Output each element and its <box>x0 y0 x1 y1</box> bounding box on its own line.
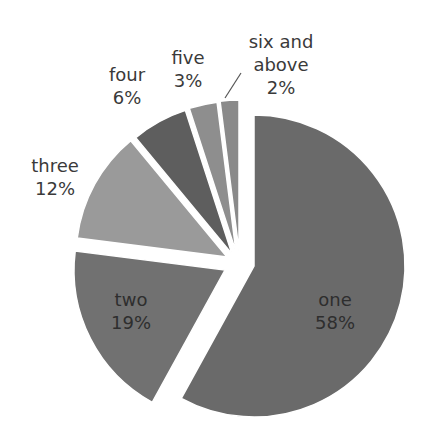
label-three-pct: 12% <box>31 177 79 200</box>
label-six-line1: six and <box>249 30 314 53</box>
leader-line-six-and-above <box>225 73 241 98</box>
label-three: three 12% <box>31 154 79 200</box>
label-six-line2: above <box>249 53 314 76</box>
label-four-pct: 6% <box>109 86 145 109</box>
label-six-and-above: six and above 2% <box>249 30 314 99</box>
label-two: two 19% <box>111 288 151 334</box>
label-one: one 58% <box>315 288 355 334</box>
label-one-pct: 58% <box>315 311 355 334</box>
label-four: four 6% <box>109 63 145 109</box>
label-four-name: four <box>109 63 145 86</box>
label-three-name: three <box>31 154 79 177</box>
label-five: five 3% <box>171 46 204 92</box>
pie-chart <box>0 0 428 445</box>
label-one-name: one <box>315 288 355 311</box>
label-two-name: two <box>111 288 151 311</box>
pie-slices <box>74 100 405 417</box>
label-six-pct: 2% <box>249 76 314 99</box>
label-five-pct: 3% <box>171 69 204 92</box>
label-five-name: five <box>171 46 204 69</box>
label-two-pct: 19% <box>111 311 151 334</box>
